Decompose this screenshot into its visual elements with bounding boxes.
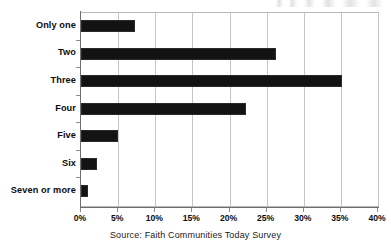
- y-axis-label-three: Three: [0, 75, 76, 85]
- x-axis-tick: [303, 208, 304, 212]
- x-axis-tick: [154, 208, 155, 212]
- x-axis-tick: [117, 208, 118, 212]
- x-axis-tick: [229, 208, 230, 212]
- x-axis-label-40: 40%: [368, 213, 385, 223]
- y-axis-label-four: Four: [0, 103, 76, 113]
- x-axis-label-35: 35%: [331, 213, 348, 223]
- bar-only-one[interactable]: [81, 20, 135, 32]
- y-axis-tick: [76, 95, 80, 96]
- y-axis-line: [80, 11, 81, 208]
- bar-three[interactable]: [81, 75, 342, 87]
- x-axis-tick: [266, 208, 267, 212]
- bar-chart-figure: Only oneTwoThreeFourFiveSixSeven or more…: [0, 0, 391, 249]
- y-axis-label-group: Only oneTwoThreeFourFiveSixSeven or more: [0, 12, 76, 207]
- bar-row: [81, 151, 378, 179]
- y-axis-tick: [76, 67, 80, 68]
- x-axis-tick: [191, 208, 192, 212]
- x-axis-label-15: 15%: [183, 213, 200, 223]
- x-axis-label-0: 0%: [74, 213, 86, 223]
- bar-four[interactable]: [81, 103, 246, 115]
- y-axis-label-only-one: Only one: [0, 20, 76, 30]
- x-axis-label-25: 25%: [257, 213, 274, 223]
- y-axis-label-seven-or-more: Seven or more: [0, 185, 76, 195]
- y-axis-tick: [76, 122, 80, 123]
- bar-row: [81, 41, 378, 69]
- x-axis-tick: [340, 208, 341, 212]
- x-axis-label-30: 30%: [294, 213, 311, 223]
- bar-seven-or-more[interactable]: [81, 185, 88, 197]
- bar-row: [81, 13, 378, 41]
- x-axis-tick: [377, 208, 378, 212]
- y-axis-label-two: Two: [0, 47, 76, 57]
- x-axis-line: [80, 207, 379, 208]
- y-axis-tick: [76, 150, 80, 151]
- bar-six[interactable]: [81, 158, 97, 170]
- x-axis-tick: [80, 208, 81, 212]
- bar-five[interactable]: [81, 130, 118, 142]
- x-axis-label-20: 20%: [220, 213, 237, 223]
- bar-row: [81, 96, 378, 124]
- bar-row: [81, 68, 378, 96]
- x-axis-label-5: 5%: [111, 213, 123, 223]
- y-axis-tick: [76, 40, 80, 41]
- y-axis-tick: [76, 177, 80, 178]
- y-axis-label-six: Six: [0, 158, 76, 168]
- y-axis-label-five: Five: [0, 130, 76, 140]
- bar-row: [81, 123, 378, 151]
- bar-two[interactable]: [81, 48, 276, 60]
- x-axis-label-10: 10%: [146, 213, 163, 223]
- gridline-40: [378, 13, 379, 206]
- source-caption: Source: Faith Communities Today Survey: [0, 230, 391, 240]
- bar-row: [81, 178, 378, 206]
- plot-area: [80, 12, 379, 207]
